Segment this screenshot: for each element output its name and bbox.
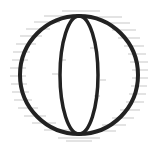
globe-outline xyxy=(20,16,138,134)
globe-icon xyxy=(0,0,158,154)
hatch-shading xyxy=(10,11,148,141)
globe-icon-container xyxy=(0,0,158,154)
globe-meridian xyxy=(60,16,98,134)
